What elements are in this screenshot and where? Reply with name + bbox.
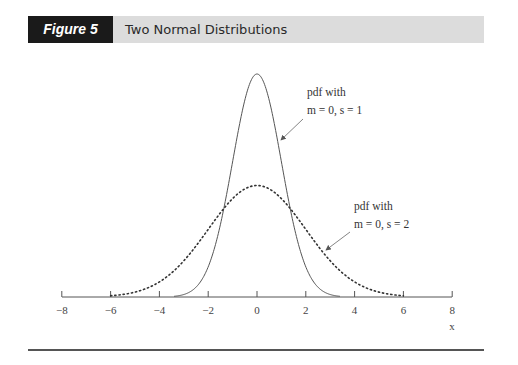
x-tick-label: −4 xyxy=(154,304,166,316)
x-tick-label: −2 xyxy=(202,304,214,316)
annotation-sd2-line2: m = 0, s = 2 xyxy=(354,218,409,231)
annotation-sd1-line2: m = 0, s = 1 xyxy=(307,104,362,117)
arrow-sd2-icon xyxy=(326,232,350,250)
x-axis-tick-labels: −8−6−4−202468 xyxy=(56,304,456,316)
x-tick-label: 2 xyxy=(303,304,309,316)
arrow-sd1-icon xyxy=(281,119,303,140)
annotation-sd1: pdf with m = 0, s = 1 xyxy=(281,86,362,140)
annotation-sd2-line1: pdf with xyxy=(354,200,393,213)
x-axis-ticks xyxy=(62,291,452,297)
bottom-rule xyxy=(28,349,484,351)
x-tick-label: 4 xyxy=(352,304,358,316)
x-tick-label: 6 xyxy=(401,304,407,316)
chart-plot: −8−6−4−202468 x pdf with m = 0, s = 1 pd… xyxy=(0,0,518,365)
annotation-sd2: pdf with m = 0, s = 2 xyxy=(326,200,409,250)
x-tick-label: −8 xyxy=(56,304,68,316)
annotation-sd1-line1: pdf with xyxy=(307,86,346,99)
x-tick-label: −6 xyxy=(105,304,117,316)
x-axis-label: x xyxy=(449,320,455,332)
x-tick-label: 0 xyxy=(254,304,260,316)
x-tick-label: 8 xyxy=(449,304,455,316)
